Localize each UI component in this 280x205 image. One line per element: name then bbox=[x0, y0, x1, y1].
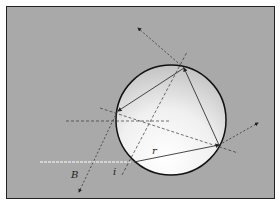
sphere bbox=[116, 65, 226, 175]
exit-ray-B bbox=[79, 112, 117, 192]
ray-diagram: B i r bbox=[0, 0, 280, 205]
label-B: B bbox=[70, 169, 78, 180]
label-i: i bbox=[113, 166, 116, 177]
reflected-ray-top bbox=[138, 28, 184, 68]
